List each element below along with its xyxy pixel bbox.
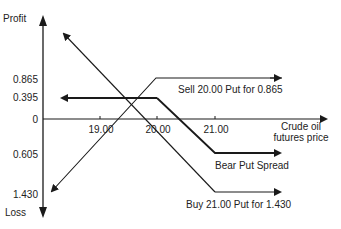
payoff-chart [0,0,341,229]
y-tick-0865: 0.865 [2,74,38,85]
sell-put-annotation: Sell 20.00 Put for 0.865 [178,84,283,95]
x-tick-21: 21.00 [203,124,228,135]
y-tick-0: 0 [2,114,38,125]
x-tick-20: 20.00 [145,124,170,135]
x-axis-label-line2: futures price [269,132,333,143]
bear-put-spread-annotation: Bear Put Spread [215,160,289,171]
x-axis-label: Crude oil futures price [269,121,333,143]
y-tick-1430: 1.430 [2,189,38,200]
y-axis-up-arrow-icon [39,15,47,26]
y-tick-0395: 0.395 [2,92,38,103]
y-axis-label-profit: Profit [3,13,26,24]
y-axis-down-arrow-icon [39,207,47,218]
y-tick-0605: 0.605 [2,149,38,160]
x-tick-19: 19.00 [88,124,113,135]
x-axis-label-line1: Crude oil [269,121,333,132]
buy-put-annotation: Buy 21.00 Put for 1.430 [186,199,291,210]
y-axis-label-loss: Loss [5,207,26,218]
